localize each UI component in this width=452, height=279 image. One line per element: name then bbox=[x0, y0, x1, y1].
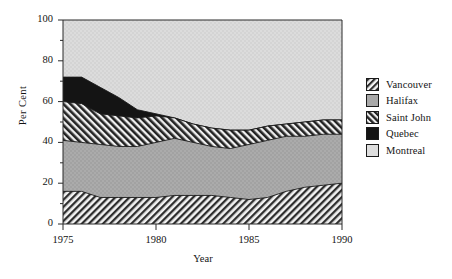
x-tick-label: 1975 bbox=[43, 234, 83, 245]
y-tick-label: 40 bbox=[23, 135, 53, 146]
x-tick-label: 1990 bbox=[322, 234, 362, 245]
legend-swatch-saint-john bbox=[366, 111, 379, 124]
legend-item-montreal[interactable]: Montreal bbox=[366, 142, 452, 159]
legend-label: Quebec bbox=[386, 128, 419, 139]
legend-swatch-halifax bbox=[366, 94, 379, 107]
x-tick-label: 1980 bbox=[136, 234, 176, 245]
y-tick-label: 20 bbox=[23, 176, 53, 187]
legend-item-halifax[interactable]: Halifax bbox=[366, 93, 452, 110]
legend-label: Montreal bbox=[386, 145, 425, 156]
legend-swatch-quebec bbox=[366, 127, 379, 140]
legend-item-saint-john[interactable]: Saint John bbox=[366, 109, 452, 126]
chart-figure: Per Cent Year 020406080100 1975198019851… bbox=[0, 0, 452, 279]
chart-areas bbox=[63, 20, 342, 224]
x-tick-label: 1985 bbox=[229, 234, 269, 245]
legend-label: Halifax bbox=[386, 95, 418, 106]
legend-item-vancouver[interactable]: Vancouver bbox=[366, 76, 452, 93]
legend-item-quebec[interactable]: Quebec bbox=[366, 126, 452, 143]
y-tick-label: 60 bbox=[23, 95, 53, 106]
x-axis-title: Year bbox=[163, 253, 243, 264]
y-tick-label: 0 bbox=[23, 217, 53, 228]
chart-legend: VancouverHalifaxSaint JohnQuebecMontreal bbox=[366, 76, 452, 159]
legend-label: Vancouver bbox=[386, 79, 432, 90]
y-tick-label: 100 bbox=[23, 13, 53, 24]
legend-swatch-vancouver bbox=[366, 78, 379, 91]
y-tick-label: 80 bbox=[23, 54, 53, 65]
legend-swatch-montreal bbox=[366, 144, 379, 157]
legend-label: Saint John bbox=[386, 112, 431, 123]
